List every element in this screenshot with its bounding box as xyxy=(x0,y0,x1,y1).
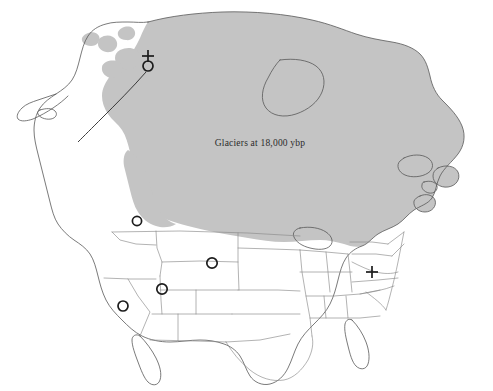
great-basin-site-circle xyxy=(157,284,167,294)
state-border-wa-or xyxy=(112,232,156,245)
glacier-patch-alaska-c xyxy=(102,61,123,78)
state-boundaries-layer xyxy=(104,231,404,381)
california-site-circle xyxy=(118,301,128,311)
marker-pacific-northwest-site[interactable] xyxy=(132,216,141,225)
state-border-pa-md xyxy=(352,254,392,256)
glacier-label: Glaciers at 18,000 ybp xyxy=(215,138,305,148)
florida-peninsula xyxy=(345,319,369,369)
map-canvas: Glaciers at 18,000 ybp xyxy=(0,0,493,391)
state-border-al-ga xyxy=(346,296,348,318)
state-border-mt-wy xyxy=(162,261,238,262)
alaska-peninsula xyxy=(17,94,68,121)
state-border-ok-tx xyxy=(226,334,290,342)
state-border-midwest-upper xyxy=(300,250,348,254)
state-border-or-ca xyxy=(104,278,156,279)
state-border-mississippi-valley xyxy=(300,250,312,336)
state-border-id-mt xyxy=(156,231,162,276)
glacier-patch-alaska-e xyxy=(118,27,135,41)
state-border-coastal-ne xyxy=(392,244,404,256)
state-border-va-nc xyxy=(352,278,398,282)
glacial-extent-map: Glaciers at 18,000 ybp xyxy=(0,0,493,391)
state-border-tn-ky xyxy=(306,290,380,296)
state-border-texas xyxy=(226,336,313,381)
state-border-nc-sc xyxy=(360,286,394,294)
state-border-al-ms xyxy=(324,296,326,318)
state-border-in-oh xyxy=(348,254,352,292)
state-border-ca-nv xyxy=(128,279,150,336)
rocky-mountain-site-circle xyxy=(207,258,217,268)
state-border-new-england xyxy=(388,232,404,244)
state-border-ne-ks xyxy=(238,290,300,291)
state-border-dakotas xyxy=(238,233,239,290)
state-border-nd-sd xyxy=(238,248,300,250)
marker-great-basin-site[interactable] xyxy=(157,284,167,294)
marker-rocky-mountain-site[interactable] xyxy=(207,258,217,268)
marker-california-site[interactable] xyxy=(118,301,128,311)
glacier-patch-alaska-a xyxy=(98,36,117,53)
marker-mid-atlantic-site[interactable] xyxy=(366,266,378,278)
glacier-extent-layer xyxy=(82,12,464,247)
pacific-northwest-site-circle xyxy=(132,216,141,225)
baja-california xyxy=(132,335,161,385)
kodiak-island xyxy=(38,109,57,120)
state-border-ga-sc xyxy=(366,292,386,310)
